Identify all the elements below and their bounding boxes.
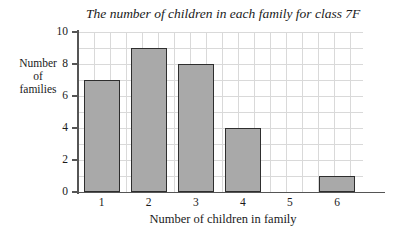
y-axis-tick-label: 2 (42, 154, 68, 166)
gridline-horizontal (78, 112, 363, 113)
plot-area (78, 32, 363, 192)
y-axis-title-line-2: of (2, 70, 74, 83)
y-axis-tick (72, 159, 78, 161)
bar-category-2 (131, 48, 167, 192)
gridline-vertical (270, 32, 271, 192)
y-axis-tick-label: 4 (42, 122, 68, 134)
gridline-vertical (174, 32, 175, 192)
x-axis-tick-label: 5 (270, 196, 310, 208)
gridline-horizontal (78, 48, 363, 49)
gridline-horizontal (78, 32, 363, 33)
y-axis-tick (72, 191, 78, 193)
y-axis-tick-label: 0 (42, 186, 68, 198)
gridline-horizontal (78, 64, 363, 65)
x-axis-tick-label: 2 (129, 196, 169, 208)
x-axis-tick-label: 4 (223, 196, 263, 208)
chart-title: The number of children in each family fo… (86, 6, 386, 22)
x-axis-tick-label: 1 (82, 196, 122, 208)
gridline-vertical (126, 32, 127, 192)
y-axis-tick-label: 10 (42, 26, 68, 38)
gridline-vertical (302, 32, 303, 192)
y-axis-tick (72, 127, 78, 129)
y-axis-tick (72, 95, 78, 97)
x-axis-tick-label: 6 (317, 196, 357, 208)
bar-category-4 (225, 128, 261, 192)
bar-category-6 (319, 176, 355, 192)
gridline-vertical (334, 32, 335, 192)
y-axis-tick-label: 6 (42, 90, 68, 102)
x-axis-tick-label: 3 (176, 196, 216, 208)
y-axis-tick (72, 31, 78, 33)
y-axis-tick-label: 8 (42, 58, 68, 70)
gridline-vertical (350, 32, 351, 192)
gridline-horizontal (78, 144, 363, 145)
gridline-horizontal (78, 96, 363, 97)
gridline-vertical (318, 32, 319, 192)
gridline-vertical (286, 32, 287, 192)
bar-category-1 (84, 80, 120, 192)
y-axis-tick (72, 63, 78, 65)
gridline-horizontal (78, 128, 363, 129)
gridline-horizontal (78, 160, 363, 161)
bar-chart-figure: The number of children in each family fo… (0, 0, 395, 237)
y-axis-line (77, 30, 79, 194)
x-axis-title: Number of children in family (78, 212, 368, 226)
gridline-vertical (222, 32, 223, 192)
gridline-horizontal (78, 80, 363, 81)
bar-category-3 (178, 64, 214, 192)
